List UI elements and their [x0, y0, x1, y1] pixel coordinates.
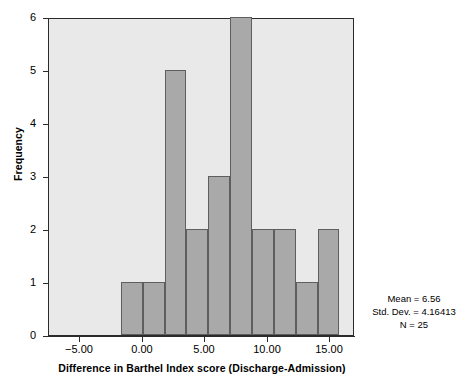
y-tick-mark — [43, 283, 48, 284]
y-tick-label: 2 — [6, 224, 36, 235]
y-tick-mark — [43, 177, 48, 178]
y-tick-label: 1 — [6, 277, 36, 288]
x-axis-line — [48, 336, 355, 337]
x-tick-label: 15.00 — [299, 344, 359, 355]
y-axis-line — [48, 18, 49, 337]
x-tick-label: 5.00 — [174, 344, 234, 355]
x-tick-label: 0.00 — [112, 344, 172, 355]
histogram-bar — [230, 17, 252, 335]
x-tick-mark — [329, 337, 330, 342]
sample-size-label: N = 25 — [362, 318, 466, 331]
histogram-bar — [165, 70, 187, 335]
x-tick-mark — [79, 337, 80, 342]
histogram-bar — [121, 282, 143, 335]
std-dev-label: Std. Dev. = 4.16413 — [362, 305, 466, 318]
histogram-bar — [318, 229, 340, 335]
plot-area — [48, 18, 354, 336]
mean-label: Mean = 6.56 — [362, 292, 466, 305]
y-tick-mark — [43, 230, 48, 231]
histogram-bar — [296, 282, 318, 335]
statistics-annotation: Mean = 6.56 Std. Dev. = 4.16413 N = 25 — [362, 292, 466, 331]
x-tick-mark — [204, 337, 205, 342]
histogram-chart: 0123456 Frequency −5.000.005.0010.0015.0… — [0, 0, 468, 388]
y-axis-title: Frequency — [12, 94, 24, 214]
histogram-bar — [252, 229, 274, 335]
y-tick-mark — [43, 124, 48, 125]
x-tick-label: −5.00 — [49, 344, 109, 355]
y-tick-label: 6 — [6, 12, 36, 23]
y-tick-mark — [43, 71, 48, 72]
histogram-bar — [143, 282, 165, 335]
histogram-bar — [186, 229, 208, 335]
bars-layer — [49, 19, 353, 335]
y-tick-label: 0 — [6, 330, 36, 341]
x-tick-mark — [267, 337, 268, 342]
y-tick-mark — [43, 18, 48, 19]
x-tick-mark — [142, 337, 143, 342]
y-tick-label: 5 — [6, 65, 36, 76]
histogram-bar — [274, 229, 296, 335]
histogram-bar — [208, 176, 230, 335]
x-axis-title: Difference in Barthel Index score (Disch… — [0, 362, 404, 374]
x-tick-label: 10.00 — [237, 344, 297, 355]
